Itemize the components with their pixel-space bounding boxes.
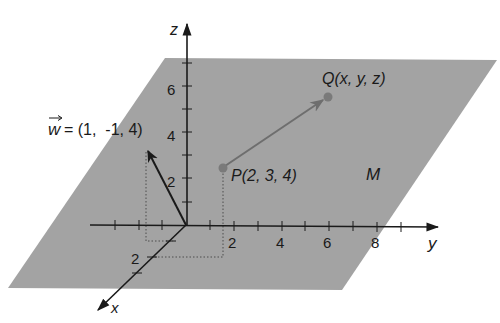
p-label-text: P(2, 3, 4) bbox=[231, 167, 297, 184]
z-axis-label: z bbox=[169, 21, 178, 38]
point-q bbox=[324, 93, 333, 102]
z-tick-2: 2 bbox=[167, 173, 175, 190]
3d-plane-diagram: 2 4 6 2 4 6 8 2 z y x P(2, 3, 4) Q(x, y,… bbox=[0, 0, 500, 323]
vector-w-name: w bbox=[48, 120, 62, 139]
point-p bbox=[219, 164, 228, 173]
y-axis-label: y bbox=[427, 234, 438, 253]
y-tick-2: 2 bbox=[228, 234, 236, 251]
y-tick-8: 8 bbox=[371, 234, 379, 251]
z-tick-4: 4 bbox=[167, 127, 175, 144]
point-q-label: Q(x, y, z) bbox=[322, 70, 386, 87]
x-tick-2: 2 bbox=[131, 250, 139, 267]
y-tick-4: 4 bbox=[276, 234, 284, 251]
x-axis-label: x bbox=[110, 299, 119, 316]
vector-w-value: = (1, -1, 4) bbox=[64, 121, 143, 138]
q-label-text: Q(x, y, z) bbox=[322, 70, 386, 87]
point-p-label: P(2, 3, 4) bbox=[231, 167, 297, 184]
plane-m-label: M bbox=[366, 165, 381, 184]
y-tick-6: 6 bbox=[323, 234, 331, 251]
z-tick-6: 6 bbox=[167, 81, 175, 98]
